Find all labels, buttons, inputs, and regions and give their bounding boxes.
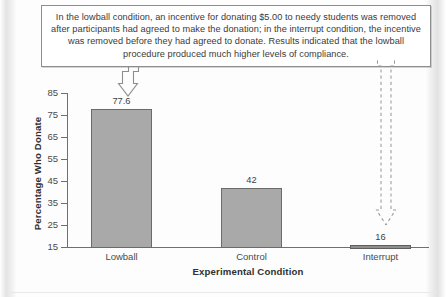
y-axis-tick (61, 137, 67, 138)
figure-panel: In the lowball condition, an incentive f… (0, 0, 446, 297)
bar-control (221, 188, 282, 248)
y-axis-label: 75 (32, 109, 58, 120)
y-axis-label: 65 (32, 131, 58, 142)
y-axis-tick (61, 159, 67, 160)
y-axis-line (67, 93, 68, 248)
y-axis-label: 55 (32, 153, 58, 164)
bar-lowball (91, 109, 152, 248)
x-axis-title: Experimental Condition (67, 266, 429, 277)
y-axis-label: 15 (32, 241, 58, 252)
bar-interrupt (350, 245, 411, 249)
bar-value-lowball: 77.6 (91, 96, 152, 106)
x-axis-category-interrupt: Interrupt (345, 251, 416, 262)
y-axis-tick (61, 203, 67, 204)
bar-value-interrupt: 16 (350, 232, 411, 242)
y-axis-label: 85 (32, 87, 58, 98)
y-axis-tick (61, 93, 67, 94)
y-axis-label: 45 (32, 175, 58, 186)
bar-value-control: 42 (221, 175, 282, 185)
y-axis-tick (61, 181, 67, 182)
bar-chart: Percentage Who Donate 85 75 65 55 45 35 … (0, 0, 446, 297)
y-axis-tick (61, 225, 67, 226)
y-axis-label: 25 (32, 219, 58, 230)
x-axis-category-control: Control (216, 251, 287, 262)
y-axis-label: 35 (32, 197, 58, 208)
x-axis-category-lowball: Lowball (86, 251, 157, 262)
y-axis-tick (61, 247, 67, 248)
y-axis-tick (61, 115, 67, 116)
